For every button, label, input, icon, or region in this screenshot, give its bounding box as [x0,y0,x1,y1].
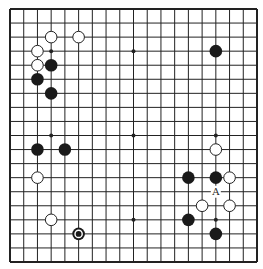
star-point-icon [132,218,136,222]
star-point-icon [214,134,218,138]
star-point-icon [132,134,136,138]
white-stone [224,172,236,184]
white-stone [32,59,44,71]
black-stone [182,171,195,184]
labels-layer: A [211,186,221,198]
white-stone [224,200,236,212]
star-point-icon [214,218,218,222]
go-board[interactable]: A [0,0,263,269]
black-stone [210,45,223,58]
label-text: A [211,186,220,197]
black-stone [31,143,44,156]
white-stone [45,214,57,226]
white-stone [210,144,222,156]
board-label: A [211,186,221,198]
black-stone [72,228,85,241]
star-point-icon [49,49,53,53]
white-stone [32,45,44,57]
white-stone [45,31,57,43]
white-stone [196,200,208,212]
star-point-icon [49,134,53,138]
black-stone [45,59,58,72]
black-stone [31,73,44,86]
black-stone [182,214,195,227]
black-stone [210,171,223,184]
board-background [0,0,263,269]
black-stone [59,143,72,156]
white-stone [73,31,85,43]
black-stone [45,87,58,100]
star-point-icon [132,49,136,53]
black-stone [210,228,223,241]
white-stone [32,172,44,184]
